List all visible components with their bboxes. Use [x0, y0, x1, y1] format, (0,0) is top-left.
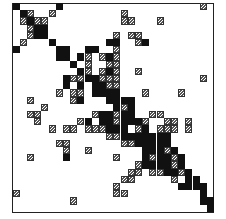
hatched-cell — [200, 3, 207, 10]
filled-cell — [13, 46, 20, 53]
hatched-cell — [113, 118, 120, 125]
hatched-cell — [113, 75, 120, 82]
filled-cell — [63, 75, 70, 82]
filled-cell — [92, 89, 99, 96]
hatched-cell — [106, 82, 113, 89]
hatched-cell — [85, 61, 92, 68]
hatched-cell — [85, 53, 92, 60]
hatched-cell — [178, 89, 185, 96]
hatched-cell — [63, 147, 70, 154]
filled-cell — [41, 25, 48, 32]
filled-cell — [85, 75, 92, 82]
filled-cell — [92, 46, 99, 53]
hatched-cell — [128, 17, 135, 24]
filled-cell — [193, 183, 200, 190]
hatched-cell — [128, 140, 135, 147]
hatched-cell — [113, 46, 120, 53]
filled-cell — [85, 118, 92, 125]
filled-cell — [200, 190, 207, 197]
hatched-cell — [157, 17, 164, 24]
filled-cell — [128, 111, 135, 118]
hatched-cell — [20, 17, 27, 24]
hatched-cell — [27, 25, 34, 32]
hatched-cell — [41, 17, 48, 24]
hatched-cell — [164, 147, 171, 154]
filled-cell — [142, 39, 149, 46]
hatched-cell — [113, 154, 120, 161]
hatched-cell — [106, 133, 113, 140]
filled-cell — [113, 125, 120, 132]
hatched-cell — [121, 17, 128, 24]
hatched-cell — [13, 190, 20, 197]
hatched-cell — [135, 68, 142, 75]
filled-cell — [164, 140, 171, 147]
hatched-cell — [113, 183, 120, 190]
hatched-cell — [113, 190, 120, 197]
hatched-cell — [121, 140, 128, 147]
filled-cell — [106, 89, 113, 96]
filled-cell — [49, 39, 56, 46]
hatched-cell — [171, 154, 178, 161]
filled-cell — [142, 154, 149, 161]
filled-cell — [41, 32, 48, 39]
hatched-cell — [178, 169, 185, 176]
hatched-cell — [34, 118, 41, 125]
filled-cell — [149, 140, 156, 147]
filled-cell — [99, 111, 106, 118]
filled-cell — [63, 46, 70, 53]
hatched-cell — [85, 68, 92, 75]
filled-cell — [128, 97, 135, 104]
filled-cell — [142, 140, 149, 147]
hatched-cell — [185, 125, 192, 132]
filled-cell — [13, 3, 20, 10]
hatched-cell — [106, 75, 113, 82]
hatched-cell — [113, 32, 120, 39]
hatched-cell — [63, 125, 70, 132]
filled-cell — [113, 97, 120, 104]
hatched-cell — [70, 89, 77, 96]
hatched-cell — [164, 125, 171, 132]
hatched-cell — [27, 32, 34, 39]
hatched-cell — [63, 140, 70, 147]
filled-cell — [77, 82, 84, 89]
filled-cell — [149, 161, 156, 168]
hatched-cell — [99, 75, 106, 82]
hatched-cell — [135, 169, 142, 176]
filled-cell — [142, 147, 149, 154]
hatched-cell — [113, 53, 120, 60]
hatched-cell — [70, 197, 77, 204]
hatched-cell — [34, 111, 41, 118]
hatched-cell — [200, 75, 207, 82]
hatched-cell — [113, 133, 120, 140]
hatched-cell — [85, 125, 92, 132]
filled-cell — [164, 161, 171, 168]
hatched-cell — [49, 125, 56, 132]
filled-cell — [77, 97, 84, 104]
filled-cell — [99, 89, 106, 96]
hatched-cell — [27, 154, 34, 161]
hatched-cell — [157, 169, 164, 176]
filled-cell — [121, 97, 128, 104]
filled-cell — [135, 133, 142, 140]
hatched-cell — [135, 32, 142, 39]
filled-cell — [200, 197, 207, 204]
filled-cell — [85, 46, 92, 53]
filled-cell — [113, 39, 120, 46]
hatched-cell — [149, 154, 156, 161]
hatched-cell — [121, 10, 128, 17]
hatched-cell — [142, 89, 149, 96]
hatched-cell — [70, 75, 77, 82]
filled-cell — [178, 183, 185, 190]
filled-cell — [99, 118, 106, 125]
hatched-cell — [171, 125, 178, 132]
hatched-cell — [113, 68, 120, 75]
filled-cell — [142, 133, 149, 140]
filled-cell — [20, 10, 27, 17]
hatched-cell — [135, 161, 142, 168]
hatched-cell — [157, 111, 164, 118]
filled-cell — [121, 125, 128, 132]
filled-cell — [193, 176, 200, 183]
hatched-cell — [27, 111, 34, 118]
filled-cell — [149, 133, 156, 140]
hatched-cell — [99, 68, 106, 75]
